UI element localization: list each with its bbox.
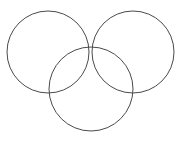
- diagram-background: [0, 0, 181, 141]
- three-circles-diagram: [0, 0, 181, 141]
- figure-canvas: [0, 0, 181, 141]
